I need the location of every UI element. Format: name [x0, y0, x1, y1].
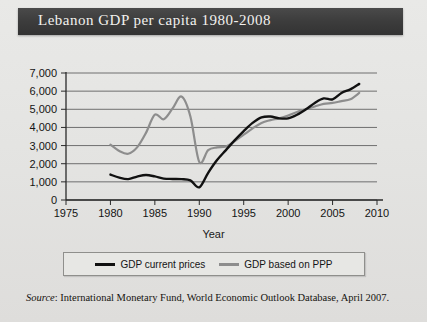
- y-axis-tick-label: 7,000: [29, 67, 57, 79]
- x-axis-tick-label: 2000: [276, 207, 300, 219]
- y-axis-tick-label: 5,000: [29, 103, 57, 115]
- legend-item-current-prices: GDP current prices: [95, 259, 205, 270]
- legend-swatch-ppp: [219, 263, 239, 266]
- y-axis-tick-label: 0: [51, 194, 57, 206]
- y-axis-tick-labels: 01,0002,0003,0004,0005,0006,0007,000: [29, 67, 57, 206]
- chart-figure: Lebanon GDP per capita 1980-2008 01,0002…: [0, 0, 427, 322]
- x-axis-tick-label: 1990: [187, 207, 211, 219]
- y-axis-tick-label: 3,000: [29, 140, 57, 152]
- y-axis-tick-label: 2,000: [29, 158, 57, 170]
- x-axis-tick-label: 1985: [143, 207, 167, 219]
- data-series-group: [110, 84, 359, 188]
- legend-swatch-current-prices: [95, 263, 115, 266]
- x-axis-tick-labels: 19751980198519901995200020052010: [54, 207, 389, 219]
- line-chart-svg: 01,0002,0003,0004,0005,0006,0007,000 197…: [0, 44, 427, 244]
- axes-group: [61, 72, 383, 205]
- series-line-current-prices: [110, 84, 359, 188]
- chart-title: Lebanon GDP per capita 1980-2008: [38, 12, 271, 29]
- x-axis-title: Year: [0, 228, 427, 240]
- y-axis-tick-label: 6,000: [29, 85, 57, 97]
- y-axis-tick-label: 1,000: [29, 176, 57, 188]
- x-axis-tick-label: 2010: [365, 207, 389, 219]
- plot-area: 01,0002,0003,0004,0005,0006,0007,000 197…: [0, 44, 427, 244]
- x-axis-tick-label: 1995: [231, 207, 255, 219]
- x-axis-tick-label: 2005: [320, 207, 344, 219]
- source-text: International Monetary Fund, World Econo…: [60, 292, 389, 303]
- source-caption: Source: International Monetary Fund, Wor…: [26, 292, 389, 303]
- x-axis-tick-label: 1975: [54, 207, 78, 219]
- title-banner: Lebanon GDP per capita 1980-2008: [18, 8, 403, 35]
- gridlines-group: [66, 73, 377, 200]
- series-line-ppp: [110, 93, 359, 163]
- legend-item-ppp: GDP based on PPP: [219, 259, 332, 270]
- legend-label-current-prices: GDP current prices: [120, 259, 205, 270]
- chart-legend: GDP current prices GDP based on PPP: [63, 252, 365, 276]
- x-axis-tick-label: 1980: [98, 207, 122, 219]
- y-axis-tick-label: 4,000: [29, 121, 57, 133]
- source-label: Source: [26, 292, 55, 303]
- legend-label-ppp: GDP based on PPP: [244, 259, 332, 270]
